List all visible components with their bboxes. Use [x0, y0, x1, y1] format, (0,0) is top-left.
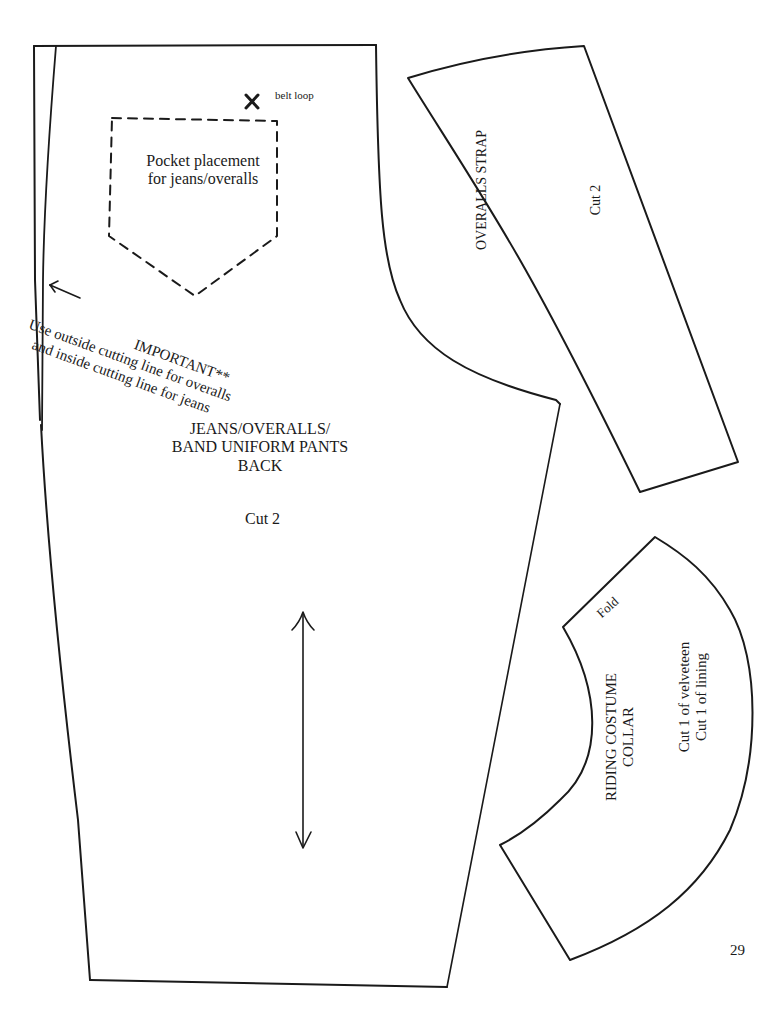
collar-title-line-1: RIDING COSTUME [603, 673, 620, 801]
strap-cut-instruction: Cut 2 [588, 185, 604, 216]
page-number: 29 [730, 942, 745, 959]
collar-title: RIDING COSTUME COLLAR [603, 673, 638, 801]
belt-loop-label: belt loop [275, 89, 314, 102]
pocket-placement-label: Pocket placement for jeans/overalls [118, 152, 288, 189]
pants-back-title: JEANS/OVERALLS/ BAND UNIFORM PANTS BACK [150, 420, 370, 475]
collar-cut-velveteen: Cut 1 of velveteen [676, 642, 693, 752]
belt-loop-x-mark [246, 95, 258, 108]
pointer-arrow-icon [50, 281, 80, 298]
pocket-placement-outline [109, 118, 277, 296]
pocket-label-line-2: for jeans/overalls [118, 170, 288, 188]
collar-title-line-2: COLLAR [620, 673, 637, 801]
pocket-label-line-1: Pocket placement [118, 152, 288, 170]
pants-cut-instruction: Cut 2 [245, 510, 280, 528]
collar-cut-lining: Cut 1 of lining [693, 642, 710, 752]
pants-title-line-2: BAND UNIFORM PANTS [150, 438, 370, 456]
pants-title-line-3: BACK [150, 457, 370, 475]
strap-title: OVERALLS STRAP [474, 130, 490, 250]
collar-cut-instructions: Cut 1 of velveteen Cut 1 of lining [676, 642, 711, 752]
pants-title-line-1: JEANS/OVERALLS/ [150, 420, 370, 438]
grainline-double-arrow-icon [292, 612, 314, 848]
overalls-strap-outline [408, 46, 738, 492]
